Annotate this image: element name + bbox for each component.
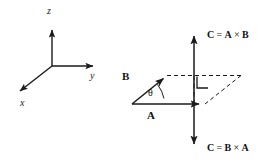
result-up-times: ×: [234, 29, 240, 40]
parallelogram-right-edge: [205, 76, 241, 105]
theta-arc: [158, 85, 165, 99]
result-label-a-cross-b: C=A×B: [207, 30, 249, 40]
vector-cross-product-figure: z y x B A θ C=A×B C=B×A: [0, 0, 269, 165]
coordinate-axes-group: [20, 30, 93, 91]
result-down-times: ×: [233, 142, 239, 153]
vector-label-b: B: [122, 71, 129, 82]
result-up-second: B: [242, 29, 249, 40]
result-down-eq: =: [217, 142, 223, 153]
axis-label-z: z: [47, 6, 51, 16]
result-down-c: C: [207, 142, 215, 153]
result-up-eq: =: [217, 29, 223, 40]
result-up-c: C: [207, 29, 215, 40]
result-up-first: A: [224, 29, 232, 40]
figure-canvas: [0, 0, 269, 165]
right-angle-marker: [197, 77, 208, 89]
x-axis-line: [20, 66, 52, 91]
axis-label-y: y: [90, 71, 94, 81]
axis-label-x: x: [20, 98, 24, 108]
result-label-b-cross-a: C=B×A: [207, 143, 249, 153]
angle-label-theta: θ: [148, 88, 153, 98]
result-down-second: A: [241, 142, 249, 153]
result-down-first: B: [224, 142, 231, 153]
vector-label-a: A: [147, 110, 155, 121]
